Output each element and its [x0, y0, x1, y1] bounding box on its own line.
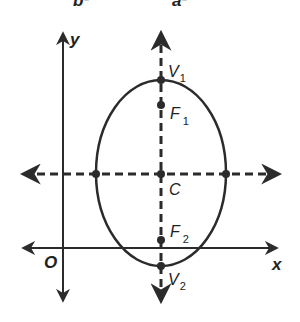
focus-2-label: F2 — [170, 223, 189, 245]
vertex-1-point — [157, 76, 165, 84]
center-point — [157, 170, 165, 178]
top-label-b-squared: b² — [73, 0, 90, 10]
vertex-2-point — [157, 262, 165, 270]
top-label-a-squared: a² — [172, 0, 188, 10]
ellipse-diagram: b² a² y x O V1 F1 C F2 V2 — [0, 0, 300, 322]
focus-2-point — [157, 236, 165, 244]
center-label: C — [169, 181, 181, 198]
y-axis-label: y — [69, 30, 81, 49]
focus-1-label: F1 — [170, 105, 189, 127]
vertex-2-label: V2 — [168, 271, 186, 292]
origin-label: O — [44, 253, 57, 272]
focus-1-point — [157, 101, 165, 109]
co-vertex-left-point — [92, 170, 100, 178]
co-vertex-right-point — [222, 170, 230, 178]
x-axis-label: x — [271, 255, 283, 274]
